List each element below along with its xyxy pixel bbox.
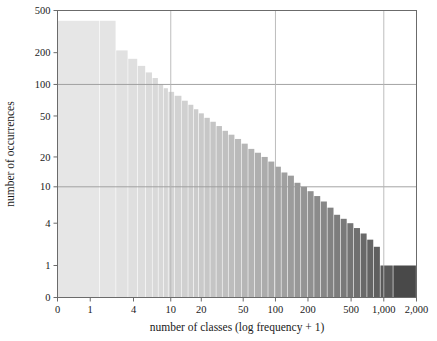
x-tick-label: 500	[343, 304, 359, 315]
bar	[158, 84, 163, 297]
bar	[153, 78, 158, 297]
bar	[281, 172, 287, 297]
bar	[393, 266, 416, 298]
x-tick-label: 2,000	[405, 304, 429, 315]
bar	[182, 101, 188, 298]
y-tick-label: 100	[35, 79, 51, 90]
chart-figure: 014102050100200500 0141020501002005001,0…	[0, 0, 437, 341]
bar	[262, 157, 268, 298]
y-tick-label: 0	[45, 292, 50, 303]
bar	[216, 126, 222, 297]
x-tick-label: 4	[131, 304, 137, 315]
bar	[301, 187, 307, 298]
bar	[354, 228, 360, 297]
bar	[204, 118, 209, 298]
bar	[242, 144, 248, 298]
bar	[268, 162, 274, 298]
bar	[341, 219, 347, 298]
bar	[361, 234, 367, 298]
bar	[321, 202, 327, 298]
bar	[380, 266, 392, 298]
bar	[235, 139, 241, 298]
bar	[58, 21, 100, 298]
bar	[314, 196, 320, 297]
y-tick-label: 200	[35, 47, 51, 58]
x-tick-label: 10	[166, 304, 177, 315]
y-tick-label: 1	[45, 260, 50, 271]
bar	[194, 109, 198, 297]
bar	[164, 88, 168, 297]
x-tick-label: 1	[88, 304, 93, 315]
bar	[347, 223, 353, 297]
x-tick-label: 50	[238, 304, 249, 315]
y-tick-label: 10	[40, 181, 51, 192]
bar	[100, 21, 116, 298]
bar	[146, 72, 152, 297]
bar	[295, 183, 301, 298]
bar	[116, 50, 127, 297]
x-tick-label: 200	[300, 304, 316, 315]
bar	[255, 153, 261, 298]
bar	[169, 92, 175, 298]
y-axis-title: number of occurrences	[4, 101, 16, 207]
bar	[334, 215, 340, 298]
x-tick-label: 0	[55, 304, 60, 315]
x-tick-label: 1,000	[372, 304, 396, 315]
bar	[367, 240, 373, 298]
bar	[374, 247, 380, 298]
x-axis-title: number of classes (log frequency + 1)	[150, 321, 325, 334]
bar	[128, 59, 137, 298]
bar	[229, 135, 235, 298]
bar	[288, 176, 294, 298]
x-tick-label: 100	[268, 304, 284, 315]
bar	[223, 131, 228, 298]
y-tick-label: 500	[35, 5, 51, 16]
y-tick-label: 4	[45, 218, 51, 229]
x-tick-label: 20	[196, 304, 207, 315]
y-tick-label: 20	[40, 152, 51, 163]
bar	[199, 113, 204, 297]
bar	[327, 208, 333, 298]
bar	[188, 105, 193, 298]
zipf-distribution-chart: 014102050100200500 0141020501002005001,0…	[0, 0, 437, 341]
y-tick-label: 50	[40, 111, 51, 122]
bar	[175, 96, 182, 298]
bar	[210, 122, 215, 298]
bar	[248, 149, 254, 298]
bar	[308, 191, 314, 297]
bar	[138, 66, 145, 298]
